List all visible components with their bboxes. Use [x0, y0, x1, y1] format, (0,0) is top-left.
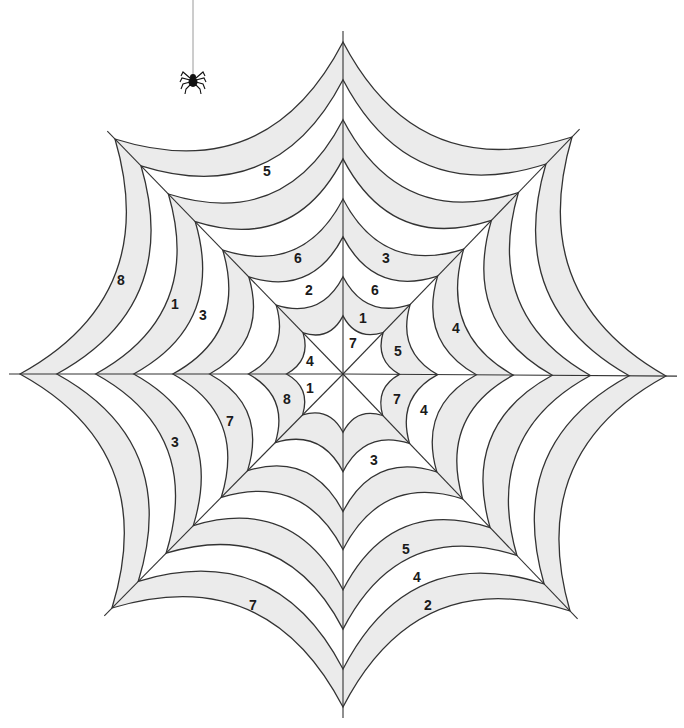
region-number-label: 4: [306, 353, 314, 369]
spider-web-puzzle: 581363261754418747335427: [0, 0, 684, 728]
region-number-label: 7: [349, 335, 357, 351]
spider-body: [189, 77, 198, 87]
region-number-label: 3: [370, 452, 378, 468]
region-number-label: 1: [171, 296, 179, 312]
region-number-label: 4: [452, 320, 460, 336]
region-number-label: 4: [420, 402, 428, 418]
region-number-label: 6: [371, 282, 379, 298]
region-number-label: 5: [263, 163, 271, 179]
region-number-label: 3: [199, 307, 207, 323]
region-number-label: 2: [305, 282, 313, 298]
region-number-label: 5: [394, 343, 402, 359]
region-number-label: 3: [382, 250, 390, 266]
region-number-label: 4: [413, 569, 421, 585]
region-number-label: 5: [402, 541, 410, 557]
region-number-label: 6: [294, 250, 302, 266]
region-number-label: 7: [393, 391, 401, 407]
region-number-label: 1: [306, 380, 314, 396]
region-number-label: 2: [424, 597, 432, 613]
region-number-label: 3: [171, 434, 179, 450]
region-number-label: 7: [226, 413, 234, 429]
region-number-label: 7: [249, 597, 257, 613]
region-number-label: 8: [117, 272, 125, 288]
region-number-label: 8: [283, 391, 291, 407]
region-number-label: 1: [359, 310, 367, 326]
